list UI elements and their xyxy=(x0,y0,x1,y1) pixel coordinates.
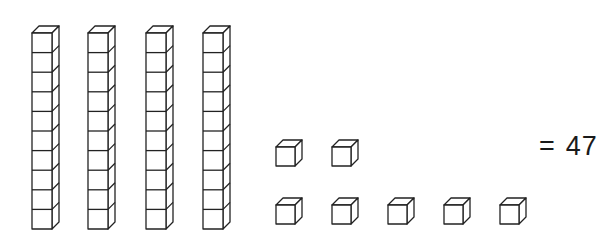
ones-cubes xyxy=(276,140,526,224)
ten-rod xyxy=(146,26,173,229)
unit-cube xyxy=(276,140,302,166)
equals-sign: = xyxy=(539,131,556,161)
total-value: 47 xyxy=(566,131,598,161)
unit-cube xyxy=(444,198,470,224)
ten-rod xyxy=(32,26,59,229)
unit-cube xyxy=(388,198,414,224)
cut-off-caption xyxy=(0,0,611,3)
unit-cube xyxy=(276,198,302,224)
unit-cube xyxy=(332,198,358,224)
ten-rod xyxy=(203,26,230,229)
unit-cube xyxy=(332,140,358,166)
equation-label: =47 xyxy=(539,131,598,162)
blocks-drawing xyxy=(0,0,611,236)
tens-rods xyxy=(32,26,230,229)
unit-cube xyxy=(500,198,526,224)
ten-rod xyxy=(88,26,115,229)
base-ten-blocks-figure: =47 xyxy=(0,0,611,236)
